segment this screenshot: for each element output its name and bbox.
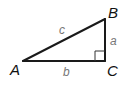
vertex-label-b: B <box>108 4 118 21</box>
right-angle-marker <box>95 51 105 61</box>
triangle-svg: A B C c a b <box>0 0 124 87</box>
side-label-c: c <box>59 23 65 37</box>
right-triangle-diagram: A B C c a b <box>0 0 124 87</box>
side-label-b: b <box>63 65 70 79</box>
side-label-a: a <box>110 34 117 48</box>
vertex-label-c: C <box>107 62 118 79</box>
vertex-label-a: A <box>9 61 20 78</box>
